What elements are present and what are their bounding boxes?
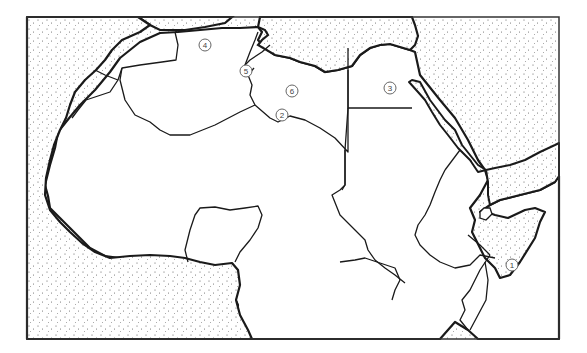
region-label-1: 1 — [506, 259, 519, 272]
map-canvas — [0, 0, 587, 353]
region-label-6: 6 — [286, 85, 299, 98]
region-label-3: 3 — [384, 82, 397, 95]
region-label-2: 2 — [276, 109, 289, 122]
region-label-4: 4 — [199, 39, 212, 52]
map: 1 2 3 4 5 6 — [0, 0, 587, 353]
region-label-5: 5 — [240, 65, 253, 78]
